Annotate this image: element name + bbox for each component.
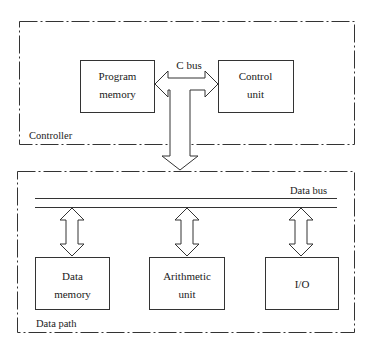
io-line1: I/O: [265, 278, 339, 291]
data-path-label: Data path: [36, 317, 77, 330]
io-bus-arrow: [289, 208, 313, 256]
data-memory-line1: Data: [35, 270, 110, 283]
arithmetic-bus-arrow: [175, 208, 199, 256]
c-bus-label: C bus: [164, 59, 214, 72]
program-memory-line1: Program: [80, 70, 155, 83]
c-bus-arrow: [155, 71, 218, 170]
arithmetic-unit-label: Arithmetic unit: [149, 270, 225, 301]
arithmetic-unit-line1: Arithmetic: [149, 270, 225, 283]
control-unit-line2: unit: [218, 88, 293, 101]
control-unit-line1: Control: [218, 70, 293, 83]
data-memory-bus-arrow: [60, 208, 84, 256]
data-bus-label: Data bus: [290, 184, 327, 197]
io-label: I/O: [265, 278, 339, 291]
arithmetic-unit-line2: unit: [149, 288, 225, 301]
data-memory-label: Data memory: [35, 270, 110, 301]
control-unit-label: Control unit: [218, 70, 293, 101]
diagram-canvas: [0, 0, 372, 359]
controller-label: Controller: [29, 129, 72, 142]
program-memory-label: Program memory: [80, 70, 155, 101]
data-memory-line2: memory: [35, 288, 110, 301]
program-memory-line2: memory: [80, 88, 155, 101]
